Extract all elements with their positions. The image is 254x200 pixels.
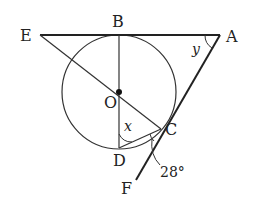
angle-28-label: 28° xyxy=(160,164,185,180)
label-d: D xyxy=(113,151,126,170)
label-c: C xyxy=(165,120,177,139)
angle-x-arc xyxy=(119,134,132,142)
angle-x-label: x xyxy=(124,118,132,134)
label-b: B xyxy=(112,12,124,31)
angle-y-arc xyxy=(205,35,212,48)
label-a: A xyxy=(225,27,238,46)
segment-ec xyxy=(40,35,161,129)
geometry-diagram: E B A O D C F x y 28° xyxy=(0,0,254,200)
angle-y-label: y xyxy=(191,41,201,57)
label-f: F xyxy=(121,179,132,198)
angle-28-leader xyxy=(152,139,160,165)
label-e: E xyxy=(20,26,32,45)
label-o: O xyxy=(104,93,117,112)
line-af xyxy=(136,35,220,180)
